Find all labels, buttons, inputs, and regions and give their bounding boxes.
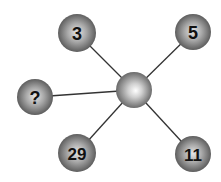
- diagram-svg: 35?2911: [0, 0, 221, 182]
- connector-lines: [35, 32, 193, 154]
- puzzle-diagram: 35?2911: [0, 0, 221, 182]
- node-bottom-right: 11: [175, 136, 211, 172]
- outer-nodes: 35?2911: [17, 14, 211, 172]
- node-label: 11: [184, 146, 202, 165]
- node-top-right: 5: [175, 14, 211, 50]
- node-label: 29: [68, 145, 87, 164]
- node-label: 5: [188, 23, 198, 43]
- center-node: [116, 72, 152, 108]
- node-bottom-left: 29: [58, 134, 96, 172]
- node-left: ?: [17, 79, 53, 115]
- node-label: ?: [30, 88, 41, 108]
- node-label: 3: [72, 24, 82, 44]
- center-sphere-icon: [116, 72, 152, 108]
- node-top-left: 3: [58, 14, 96, 52]
